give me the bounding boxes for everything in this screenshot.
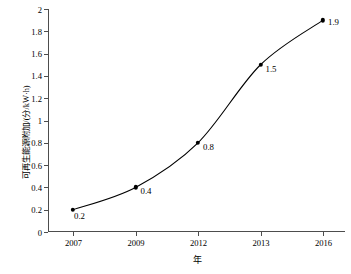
x-tick: 2009: [136, 232, 137, 236]
data-point-label: 1.5: [266, 64, 277, 74]
x-tick-label: 2007: [65, 238, 82, 248]
y-tick-label: 1.2: [31, 94, 42, 103]
y-tick-label: 1.8: [31, 27, 42, 36]
y-tick-label: 1: [38, 117, 42, 126]
x-tick-label: 2009: [127, 238, 144, 248]
data-series-line: [48, 9, 345, 232]
data-point-label: 0.8: [203, 142, 214, 152]
data-point-label: 0.4: [141, 186, 152, 196]
plot-area: 00.20.40.60.811.21.41.61.82 200720092012…: [48, 9, 345, 232]
x-tick-label: 2012: [190, 238, 207, 248]
y-tick-label: 0.8: [31, 139, 42, 148]
y-tick-label: 0.6: [31, 161, 42, 170]
y-tick-label: 0: [38, 228, 42, 237]
data-point-label: 1.9: [328, 17, 339, 27]
x-tick: 2007: [73, 232, 74, 236]
y-tick-label: 0.2: [31, 206, 42, 215]
data-point-label: 0.2: [74, 211, 85, 221]
x-tick: 2012: [198, 232, 199, 236]
x-tick-label: 2013: [252, 238, 269, 248]
y-tick-label: 1.4: [31, 72, 42, 81]
chart-figure: 可再生能源附加/(分/kW·h) 00.20.40.60.811.21.41.6…: [0, 0, 351, 274]
x-axis-label-text: 年: [193, 255, 202, 266]
y-tick: 0: [44, 232, 48, 233]
y-tick-label: 1.6: [31, 50, 42, 59]
x-tick: 2013: [261, 232, 262, 236]
line-path: [73, 20, 323, 210]
x-tick-label: 2016: [315, 238, 332, 248]
y-tick-label: 0.4: [31, 183, 42, 192]
y-tick-label: 2: [38, 5, 42, 14]
x-tick: 2016: [323, 232, 324, 236]
x-axis-label: 年: [0, 255, 351, 266]
